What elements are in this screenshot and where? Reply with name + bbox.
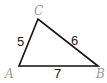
side-label-cb: 6 bbox=[71, 33, 78, 48]
vertex-label-c: C bbox=[34, 4, 43, 18]
triangle-diagram: C A B 5 6 7 bbox=[0, 0, 107, 83]
vertex-label-a: A bbox=[4, 67, 14, 81]
vertex-label-b: B bbox=[95, 67, 105, 81]
side-label-ab: 7 bbox=[54, 66, 61, 81]
triangle-abc bbox=[19, 19, 98, 66]
side-label-ac: 5 bbox=[17, 34, 24, 49]
